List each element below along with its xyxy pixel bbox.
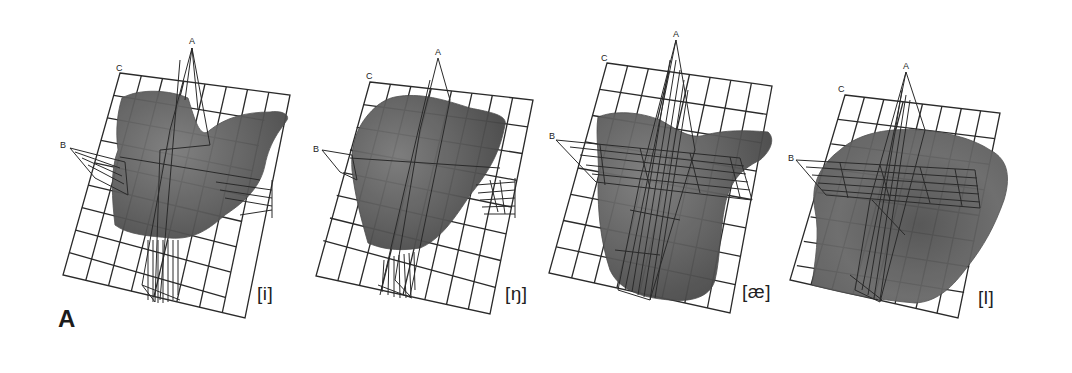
plane-label-a: A	[903, 61, 909, 71]
phoneme-label: [l]	[978, 287, 994, 309]
tongue-surface-l	[812, 130, 1007, 303]
plane-label-c: C	[838, 84, 845, 94]
tongue-3d-plot-l	[0, 0, 1072, 373]
figure-panel-letter: A	[58, 305, 75, 333]
tongue-surface-figure: A C B [i]	[0, 0, 1072, 373]
plane-label-b: B	[788, 153, 794, 163]
